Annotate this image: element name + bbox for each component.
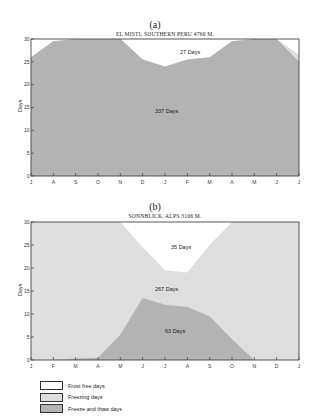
x-tick-label: J [30, 363, 33, 369]
y-tick-label: 5 [27, 334, 30, 340]
chart-b-ylabel: Days [17, 283, 23, 296]
x-tick-label: F [52, 363, 55, 369]
freeze-thaw-swatch [40, 404, 63, 413]
x-tick-label: J [164, 363, 167, 369]
x-tick-label: J [141, 363, 144, 369]
x-tick-label: O [230, 363, 234, 369]
y-tick-label: 0 [27, 357, 30, 363]
y-tick-label: 30 [24, 219, 30, 225]
chart-b: 051015202530JFMAMJJASONDJ 35 Days 267 Da… [0, 0, 310, 380]
freezing-swatch [40, 393, 63, 402]
x-tick-label: D [275, 363, 279, 369]
x-tick-label: A [96, 363, 100, 369]
x-tick-label: N [253, 363, 257, 369]
legend-item-frost-free: Frost free days [40, 380, 122, 392]
legend-item-freeze-thaw: Freeze and thaw days [40, 403, 122, 415]
legend-label: Freezing days [68, 394, 103, 400]
chart-b-annotation-top: 35 Days [171, 244, 191, 250]
y-tick-label: 25 [24, 242, 30, 248]
frost-free-swatch [40, 381, 63, 390]
x-tick-label: M [118, 363, 122, 369]
legend-item-freezing: Freezing days [40, 392, 122, 404]
x-tick-label: M [74, 363, 78, 369]
x-tick-label: S [208, 363, 212, 369]
chart-b-annotation-mid: 267 Days [155, 286, 178, 292]
x-tick-label: J [298, 363, 301, 369]
y-tick-label: 15 [24, 288, 30, 294]
x-tick-label: A [186, 363, 190, 369]
legend-label: Freeze and thaw days [68, 406, 122, 412]
y-tick-label: 20 [24, 265, 30, 271]
y-tick-label: 10 [24, 311, 30, 317]
chart-b-annotation-low: 63 Days [165, 328, 185, 334]
legend: Frost free days Freezing days Freeze and… [40, 380, 122, 415]
legend-label: Frost free days [68, 383, 105, 389]
